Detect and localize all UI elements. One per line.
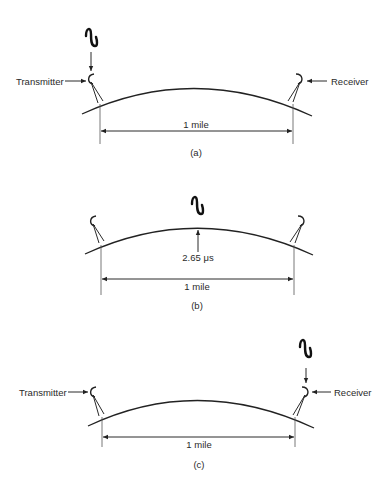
earth-curvature [82,88,312,116]
transmitter-label: Transmitter [16,76,64,87]
transmitter-mast [93,224,104,243]
signal-wave-icon [300,340,311,357]
receiver-label: Receiver [331,76,369,87]
earth-curvature [88,400,314,428]
distance-label: 1 mile [183,119,208,130]
signal-wave-icon [86,29,97,46]
distance-label: 1 mile [186,439,211,450]
receiver-label: Receiver [334,387,372,398]
transmitter-mast [93,395,104,416]
distance-label: 1 mile [184,281,209,292]
panel-b: 2.65 μs 1 mile (b) [85,197,313,311]
time-label: 2.65 μs [182,252,214,263]
receiver-mast [290,224,302,243]
panel-caption: (a) [190,147,202,158]
propagation-diagram: Transmitter Receiver 1 mile (a) 2.65 μs [0,0,385,482]
panel-caption: (c) [193,459,204,470]
receiver-mast [293,395,305,416]
signal-wave-icon [192,197,203,214]
earth-curvature [85,228,313,255]
receiver-mast [288,82,300,102]
transmitter-label: Transmitter [19,387,67,398]
transmitter-mast [91,82,103,103]
receiver-dish-icon [296,74,302,84]
panel-c: Transmitter Receiver 1 mile (c) [19,340,372,470]
panel-a: Transmitter Receiver 1 mile (a) [16,29,369,158]
receiver-dish-icon [298,216,304,226]
panel-caption: (b) [191,300,203,311]
